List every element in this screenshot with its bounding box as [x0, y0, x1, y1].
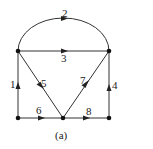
edge-label-5: 5	[41, 77, 47, 89]
arrow-icon-edge-1	[16, 82, 21, 89]
node-bottom-left	[16, 116, 21, 121]
node-bottom-middle	[61, 116, 66, 121]
edge-label-7: 7	[80, 74, 86, 86]
arrow-icon-edge-4	[107, 84, 112, 91]
directed-graph-diagram: 2 3 1 4 5 7 6 8 (a)	[0, 0, 153, 149]
node-bottom-right	[107, 116, 112, 121]
edge-2-arc	[18, 18, 109, 51]
edge-label-1: 1	[10, 78, 16, 90]
arrow-icon-edge-6	[38, 116, 45, 121]
edge-label-2: 2	[62, 7, 68, 19]
edge-label-3: 3	[61, 52, 67, 64]
node-top-right	[107, 49, 112, 54]
node-top-left	[16, 49, 21, 54]
edge-label-4: 4	[112, 79, 118, 91]
edge-label-8: 8	[86, 105, 92, 117]
figure-caption: (a)	[55, 129, 68, 142]
edge-label-6: 6	[36, 104, 42, 116]
